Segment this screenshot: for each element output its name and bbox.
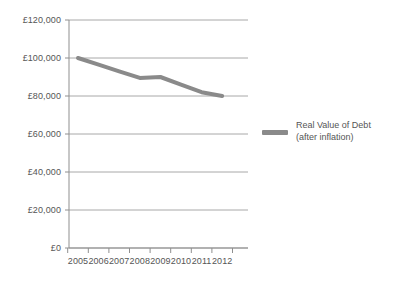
x-axis-tick-label: 2009 — [150, 256, 170, 266]
line-chart: £0£20,000£40,000£60,000£80,000£100,000£1… — [0, 0, 396, 282]
x-axis-tick-label: 2008 — [130, 256, 150, 266]
y-axis-tick-label: £20,000 — [0, 205, 61, 215]
x-axis-tick-label: 2007 — [109, 256, 129, 266]
series-line-0 — [78, 58, 222, 96]
y-axis-tick-label: £60,000 — [0, 129, 61, 139]
x-axis-tick-marks — [68, 248, 248, 253]
x-axis-tick-label: 2006 — [88, 256, 108, 266]
chart-legend: Real Value of Debt (after inflation) — [262, 119, 371, 143]
x-axis-tick-label: 2010 — [171, 256, 191, 266]
x-axis-tick-label: 2012 — [212, 256, 232, 266]
y-axis-tick-label: £40,000 — [0, 167, 61, 177]
legend-label-real-value-of-debt: Real Value of Debt (after inflation) — [296, 119, 371, 143]
x-axis-tick-label: 2011 — [192, 256, 212, 266]
legend-label-line-2: (after inflation) — [296, 131, 371, 143]
y-axis-tick-marks — [65, 20, 69, 248]
gridlines — [69, 20, 248, 248]
data-series-line — [78, 58, 222, 96]
x-axis-tick-label: 2005 — [68, 256, 88, 266]
y-axis-tick-label: £0 — [0, 243, 61, 253]
legend-swatch-real-value-of-debt — [262, 130, 288, 135]
y-axis-tick-label: £80,000 — [0, 91, 61, 101]
y-axis-tick-label: £100,000 — [0, 53, 61, 63]
y-axis-tick-label: £120,000 — [0, 15, 61, 25]
legend-label-line-1: Real Value of Debt — [296, 119, 371, 131]
